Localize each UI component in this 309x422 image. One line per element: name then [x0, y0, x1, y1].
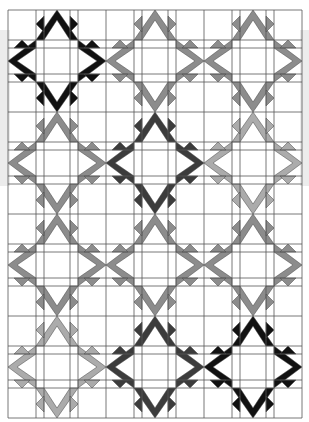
block-2-0-bottom-left-wing: [36, 294, 44, 310]
block-1-2-right-bottom-wing: [280, 176, 296, 184]
block-2-2-top-right-wing: [266, 220, 274, 236]
block-1-1-left-bottom-wing: [112, 176, 128, 184]
block-2-0-left-top-wing: [14, 244, 30, 252]
block-1-0-top-right-wing: [70, 118, 78, 134]
block-3-0-top-right-wing: [70, 322, 78, 338]
block-2-1-left-top-wing: [112, 244, 128, 252]
block-2-2-bottom-right-wing: [266, 294, 274, 310]
block-0-2-left-bottom-wing: [210, 74, 226, 82]
block-2-0-right-top-wing: [84, 244, 100, 252]
block-0-0-right-top-wing: [84, 40, 100, 48]
block-3-2-top-left-wing: [232, 322, 240, 338]
block-0-1-right-bottom-wing: [182, 74, 198, 82]
block-0-2-right-bottom-wing: [280, 74, 296, 82]
block-2-1-top-right-wing: [168, 220, 176, 236]
block-0-1-left-top-wing: [112, 40, 128, 48]
block-1-2-top-right-wing: [266, 118, 274, 134]
block-3-2-left-top-wing: [210, 346, 226, 354]
block-2-2-top-left-wing: [232, 220, 240, 236]
block-1-0-right-top-wing: [84, 142, 100, 150]
block-3-1-left-bottom-wing: [112, 380, 128, 388]
quilt-grid-lines: [8, 10, 302, 418]
block-0-1-right-top-wing: [182, 40, 198, 48]
block-1-1-right-bottom-wing: [182, 176, 198, 184]
block-2-1-right-bottom-wing: [182, 278, 198, 286]
block-2-1-left-bottom-wing: [112, 278, 128, 286]
block-0-2-top-right-wing: [266, 16, 274, 32]
block-0-0-left-bottom-wing: [14, 74, 30, 82]
block-0-0-bottom-right-wing: [70, 90, 78, 106]
block-1-0-top-left-wing: [36, 118, 44, 134]
block-3-0-bottom-left-wing: [36, 396, 44, 412]
block-0-2-right-top-wing: [280, 40, 296, 48]
block-1-1-bottom-right-wing: [168, 192, 176, 208]
block-3-2-top-right-wing: [266, 322, 274, 338]
block-2-0-top-left-wing: [36, 220, 44, 236]
block-3-0-right-top-wing: [84, 346, 100, 354]
block-1-0-bottom-right-wing: [70, 192, 78, 208]
block-0-0-left-top-wing: [14, 40, 30, 48]
block-0-2-bottom-left-wing: [232, 90, 240, 106]
quilt-diagram: [0, 0, 309, 422]
block-0-2-top-left-wing: [232, 16, 240, 32]
block-2-1-right-top-wing: [182, 244, 198, 252]
block-1-0-left-bottom-wing: [14, 176, 30, 184]
block-1-2-right-top-wing: [280, 142, 296, 150]
block-0-2-bottom-right-wing: [266, 90, 274, 106]
block-2-2-left-top-wing: [210, 244, 226, 252]
block-3-1-right-top-wing: [182, 346, 198, 354]
block-1-2-left-bottom-wing: [210, 176, 226, 184]
block-2-2-right-top-wing: [280, 244, 296, 252]
block-1-0-left-top-wing: [14, 142, 30, 150]
block-3-0-left-top-wing: [14, 346, 30, 354]
block-2-2-left-bottom-wing: [210, 278, 226, 286]
block-3-2-right-top-wing: [280, 346, 296, 354]
block-0-0-top-right-wing: [70, 16, 78, 32]
block-0-0-bottom-left-wing: [36, 90, 44, 106]
block-1-2-top-left-wing: [232, 118, 240, 134]
block-3-1-bottom-left-wing: [134, 396, 142, 412]
block-3-1-top-right-wing: [168, 322, 176, 338]
block-2-0-right-bottom-wing: [84, 278, 100, 286]
block-2-1-bottom-left-wing: [134, 294, 142, 310]
block-2-0-top-right-wing: [70, 220, 78, 236]
block-2-2-bottom-left-wing: [232, 294, 240, 310]
block-0-0-right-bottom-wing: [84, 74, 100, 82]
block-2-1-top-left-wing: [134, 220, 142, 236]
block-1-1-right-top-wing: [182, 142, 198, 150]
block-3-2-right-bottom-wing: [280, 380, 296, 388]
block-3-0-left-bottom-wing: [14, 380, 30, 388]
block-3-2-bottom-right-wing: [266, 396, 274, 412]
block-1-1-top-left-wing: [134, 118, 142, 134]
block-0-1-bottom-right-wing: [168, 90, 176, 106]
block-1-0-right-bottom-wing: [84, 176, 100, 184]
block-0-1-top-left-wing: [134, 16, 142, 32]
block-0-0-top-left-wing: [36, 16, 44, 32]
block-1-1-bottom-left-wing: [134, 192, 142, 208]
block-1-1-left-top-wing: [112, 142, 128, 150]
block-3-1-top-left-wing: [134, 322, 142, 338]
block-1-2-bottom-right-wing: [266, 192, 274, 208]
block-1-0-bottom-left-wing: [36, 192, 44, 208]
block-0-1-left-bottom-wing: [112, 74, 128, 82]
block-3-0-right-bottom-wing: [84, 380, 100, 388]
block-1-2-left-top-wing: [210, 142, 226, 150]
block-1-1-top-right-wing: [168, 118, 176, 134]
block-2-2-right-bottom-wing: [280, 278, 296, 286]
block-2-0-bottom-right-wing: [70, 294, 78, 310]
block-2-0-left-bottom-wing: [14, 278, 30, 286]
block-3-2-left-bottom-wing: [210, 380, 226, 388]
block-3-0-bottom-right-wing: [70, 396, 78, 412]
block-3-2-bottom-left-wing: [232, 396, 240, 412]
block-0-2-left-top-wing: [210, 40, 226, 48]
block-3-0-top-left-wing: [36, 322, 44, 338]
block-0-1-top-right-wing: [168, 16, 176, 32]
block-1-2-bottom-left-wing: [232, 192, 240, 208]
block-3-1-right-bottom-wing: [182, 380, 198, 388]
block-3-1-bottom-right-wing: [168, 396, 176, 412]
block-2-1-bottom-right-wing: [168, 294, 176, 310]
block-0-1-bottom-left-wing: [134, 90, 142, 106]
block-3-1-left-top-wing: [112, 346, 128, 354]
